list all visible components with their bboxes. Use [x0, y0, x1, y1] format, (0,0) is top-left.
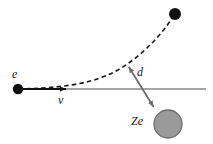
electron-label: e — [12, 68, 17, 80]
electron-trajectory-path — [18, 17, 173, 89]
impact-distance-label: d — [137, 66, 143, 78]
velocity-label: v — [58, 94, 63, 106]
scattering-diagram: e v d Ze — [0, 0, 213, 144]
diagram-canvas — [0, 0, 213, 144]
electron-particle-end — [169, 8, 181, 20]
nucleus-circle — [154, 110, 182, 138]
electron-particle-start — [13, 84, 23, 94]
nucleus-label: Ze — [131, 115, 143, 127]
